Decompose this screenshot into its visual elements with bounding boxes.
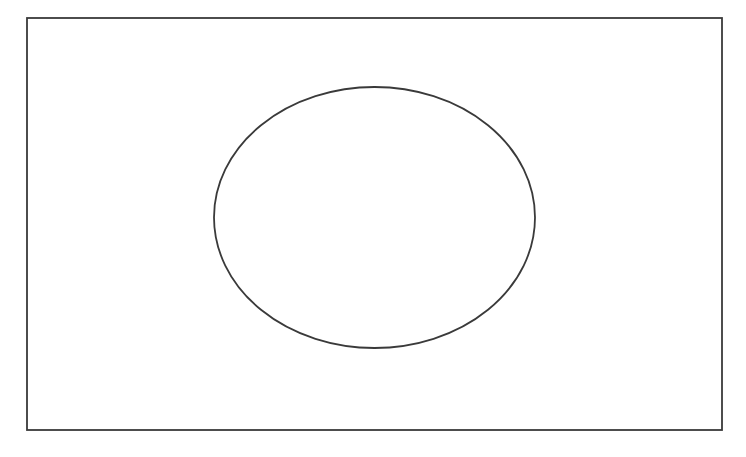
universe-rectangle (27, 18, 722, 430)
venn-diagram (0, 0, 746, 457)
set-ellipse (214, 87, 535, 348)
